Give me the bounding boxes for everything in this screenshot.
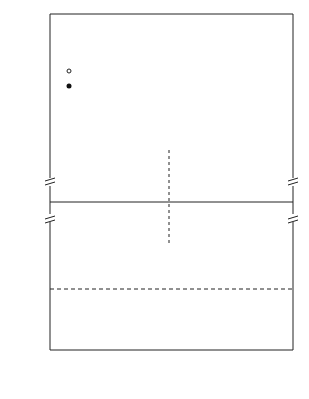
axis-break-marks — [45, 178, 298, 223]
figure — [0, 0, 309, 399]
legend-filled-marker — [67, 84, 72, 89]
legend-open-marker — [67, 69, 71, 73]
plot-frame — [50, 14, 293, 350]
